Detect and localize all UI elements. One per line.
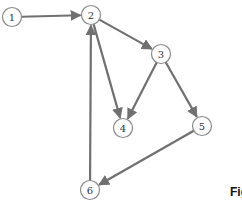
edge-2-to-3 bbox=[99, 20, 152, 49]
edge-5-to-6 bbox=[99, 131, 194, 185]
node-2: 2 bbox=[82, 6, 101, 25]
edge-3-to-5 bbox=[166, 62, 197, 117]
node-3: 3 bbox=[152, 45, 171, 64]
node-6: 6 bbox=[81, 181, 100, 200]
node-label: 5 bbox=[199, 121, 205, 132]
edge-2-to-4 bbox=[94, 24, 121, 118]
node-label: 2 bbox=[88, 10, 94, 21]
node-label: 6 bbox=[87, 185, 93, 196]
node-4: 4 bbox=[114, 119, 133, 138]
edges-group bbox=[21, 15, 196, 185]
directed-graph: 123456 bbox=[0, 0, 242, 206]
figure-caption: Fig bbox=[230, 185, 242, 199]
nodes-group: 123456 bbox=[3, 6, 212, 200]
node-label: 1 bbox=[9, 12, 15, 23]
node-5: 5 bbox=[193, 117, 212, 136]
node-1: 1 bbox=[3, 8, 22, 27]
node-label: 3 bbox=[158, 49, 164, 60]
edge-3-to-4 bbox=[128, 62, 157, 118]
edge-6-to-2 bbox=[90, 25, 91, 180]
node-label: 4 bbox=[120, 123, 126, 134]
edge-1-to-2 bbox=[21, 15, 80, 16]
